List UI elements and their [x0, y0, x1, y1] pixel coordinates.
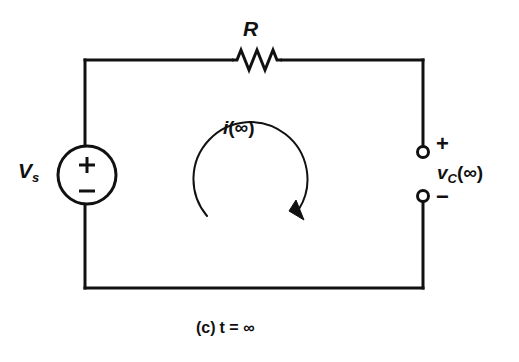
terminal-top-node: [418, 147, 429, 158]
cap-voltage-subscript: C: [448, 171, 457, 186]
resistor-zigzag-path: [232, 50, 282, 70]
terminal-minus-sign: −: [436, 186, 449, 208]
source-circle: [58, 146, 116, 204]
caption-part-letter: (c): [196, 319, 216, 336]
resistor-symbol: [232, 50, 282, 70]
terminal-bottom-node: [418, 191, 429, 202]
circuit-figure: Vs R i(∞) vC(∞) + − (c)t = ∞: [0, 0, 519, 362]
source-label: Vs: [18, 160, 39, 184]
caption-condition: t = ∞: [220, 319, 255, 336]
figure-caption: (c)t = ∞: [196, 320, 255, 336]
resistor-label: R: [243, 18, 258, 39]
cap-voltage-argument: (∞): [457, 162, 483, 183]
cap-voltage-symbol: v: [437, 162, 448, 183]
voltage-source-symbol: [58, 146, 116, 204]
output-terminal-pair: [418, 147, 429, 202]
terminal-plus-sign: +: [436, 133, 449, 155]
capacitor-voltage-label: vC(∞): [437, 163, 483, 185]
source-label-subscript: s: [32, 170, 39, 185]
source-label-symbol: V: [18, 159, 32, 182]
current-label: i(∞): [223, 118, 254, 137]
current-label-argument: (∞): [228, 117, 254, 138]
